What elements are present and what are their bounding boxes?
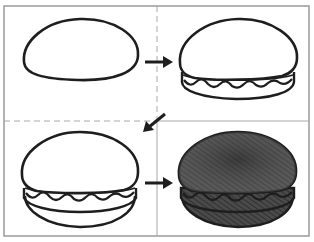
burger-drawing-steps-diagram: How to draw a burger (4 steps) Step 1: d… (0, 0, 314, 242)
bun-top-oval (24, 19, 138, 80)
bun-top-dome (22, 132, 138, 193)
bun-shade-overlay (179, 132, 296, 193)
arrow-down-left-icon (143, 114, 165, 132)
arrow-right-icon (145, 177, 173, 189)
step-1-panel (24, 19, 138, 80)
step-4-panel (179, 132, 296, 227)
step-3-panel (22, 132, 138, 227)
step-2-panel (180, 19, 297, 99)
diagram-canvas (0, 0, 314, 242)
arrow-right-icon (145, 56, 173, 68)
bun-top-dome (180, 19, 297, 80)
